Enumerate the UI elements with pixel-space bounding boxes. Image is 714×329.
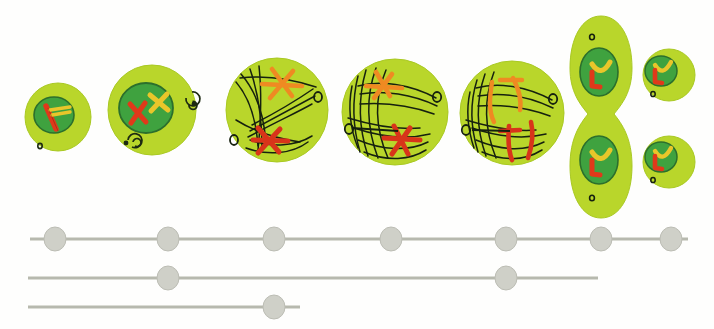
track-node[interactable] [495,266,517,290]
chromosome-tracks [28,227,688,319]
track-node[interactable] [157,227,179,251]
track-node[interactable] [590,227,612,251]
track-node[interactable] [380,227,402,251]
cell-stage-5-anaphase[interactable] [460,61,564,165]
track-row-3[interactable] [28,295,300,319]
track-row-1[interactable] [30,227,688,251]
cytoplasm-dividing [570,16,632,218]
cell-stage-2-prophase[interactable] [108,65,200,155]
track-node[interactable] [157,266,179,290]
daughter-cell-bottom [643,136,695,188]
mitosis-diagram-svg [0,0,714,329]
cell-stage-4-metaphase[interactable] [342,59,448,165]
daughter-cell-top [643,49,695,101]
kinetochore-fiber-left [472,130,510,131]
track-node[interactable] [263,227,285,251]
track-node[interactable] [660,227,682,251]
cell-stage-7-daughter-cells[interactable] [643,49,695,188]
cell-stage-1-interphase[interactable] [25,83,91,151]
cell-stage-3-prometaphase[interactable] [226,58,328,162]
track-node[interactable] [495,227,517,251]
track-node[interactable] [263,295,285,319]
diagram-stage [0,0,714,329]
cell-stage-6-telophase[interactable] [570,16,632,218]
track-row-2[interactable] [28,266,598,290]
track-node[interactable] [44,227,66,251]
